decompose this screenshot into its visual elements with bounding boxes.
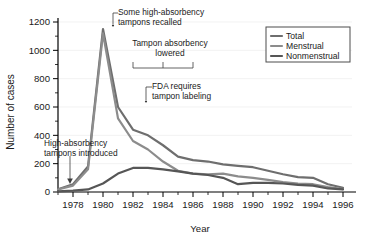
legend-label-total: Total [286,31,304,41]
legend: TotalMenstrualNonmenstrual [266,27,350,62]
y-tick-label: 600 [34,101,50,112]
x-tick-label: 1992 [272,199,293,210]
annotation-fda-labeling: FDA requires tampon labeling [152,82,211,101]
legend-label-nonmenstrual: Nonmenstrual [286,51,340,61]
y-tick-label: 800 [34,73,50,84]
line-chart: 020040060080010001200 197819801982198419… [0,0,367,237]
x-tick-label: 1986 [182,199,203,210]
x-tick-label: 1980 [92,199,113,210]
annotation-absorbency-lowered: Tampon absorbency lowered [118,39,222,58]
chart-container: 020040060080010001200 197819801982198419… [0,0,367,237]
x-tick-label: 1982 [122,199,143,210]
x-tick-label: 1994 [302,199,324,210]
legend-label-menstrual: Menstrual [286,41,324,51]
annotation-introduced: High-absorbency tampons introduced [44,139,118,158]
y-axis-label: Number of cases [5,74,16,150]
x-tick-label: 1990 [242,199,263,210]
x-tick-label: 1978 [62,199,83,210]
x-tick-label: 1984 [152,199,174,210]
annotation-recall: Some high-absorbency tampons recalled [118,8,204,27]
y-tick-label: 1000 [29,45,50,56]
y-tick-label: 200 [34,158,50,169]
annotation-fda-line2: tampon labeling [152,92,211,102]
annotation-absorbency-line2: lowered [118,49,222,59]
series-line-nonmenstrual [58,168,343,191]
annotation-introduced-line2: tampons introduced [44,149,118,159]
x-tick-label: 1996 [332,199,353,210]
y-axis-ticks: 020040060080010001200 [29,16,58,197]
x-axis-ticks: 1978198019821984198619881990199219941996 [58,192,354,210]
y-tick-label: 1200 [29,16,50,27]
y-tick-label: 0 [45,186,50,197]
annotation-recall-line2: tampons recalled [118,18,204,28]
x-tick-label: 1988 [212,199,233,210]
x-axis-label: Year [190,223,210,234]
